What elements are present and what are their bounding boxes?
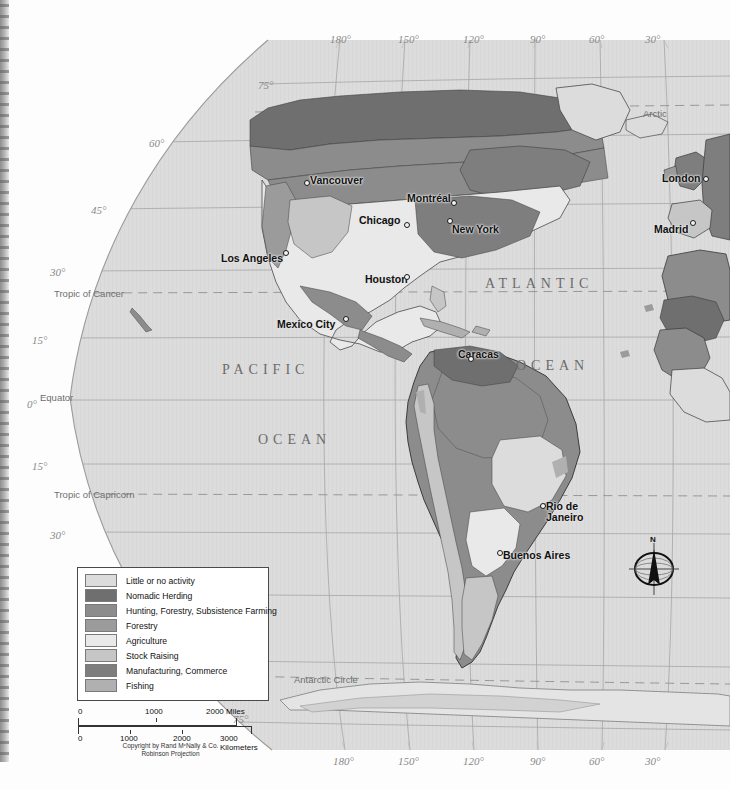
map-page: 180°150°120°90°60°30°180°150°120°90°60°3… bbox=[0, 0, 730, 790]
scale-miles-labels: 0 1000 2000 Miles bbox=[78, 707, 263, 718]
scale-bar-kilometers bbox=[78, 726, 252, 734]
city-label-houston: Houston bbox=[365, 273, 408, 285]
legend-swatch bbox=[85, 679, 117, 692]
legend-swatch bbox=[85, 664, 117, 677]
city-label-vancouver: Vancouver bbox=[310, 174, 363, 186]
city-marker-dot bbox=[497, 550, 503, 556]
ocean-label-2: ATLANTIC bbox=[485, 276, 593, 292]
latitude-label-2: 45° bbox=[91, 204, 106, 216]
city-label-london: London bbox=[662, 172, 700, 184]
city-marker-dot bbox=[540, 503, 546, 509]
legend-swatch bbox=[85, 649, 117, 662]
legend-label: Forestry bbox=[126, 621, 158, 631]
legend-label: Hunting, Forestry, Subsistence Farming bbox=[126, 606, 277, 616]
city-marker-dot bbox=[703, 176, 709, 182]
city-marker-dot bbox=[451, 200, 457, 206]
scale-mile-tick-0: 0 bbox=[78, 707, 82, 716]
compass-rose: N bbox=[627, 535, 681, 601]
credit-copyright: Copyright by Rand MᶜNally & Co. bbox=[78, 742, 263, 750]
scale-mile-tick-2: 2000 Miles bbox=[206, 707, 245, 716]
latitude-label-3: 30° bbox=[50, 266, 65, 278]
city-marker-dot bbox=[283, 250, 289, 256]
latitude-label-0: 75° bbox=[258, 79, 273, 91]
city-label-new-york: New York bbox=[452, 223, 499, 235]
longitude-label-bottom-5: 30° bbox=[645, 755, 660, 767]
legend-label: Manufacturing, Commerce bbox=[126, 666, 227, 676]
city-marker-dot bbox=[343, 316, 349, 322]
city-label-montr-al: Montréal bbox=[407, 192, 451, 204]
special-line-label-0: Arctic bbox=[643, 108, 667, 119]
legend-row-1[interactable]: Nomadic Herding bbox=[78, 588, 268, 603]
city-label-janeiro: Janeiro bbox=[546, 511, 583, 523]
longitude-label-top-5: 30° bbox=[645, 33, 660, 45]
longitude-label-top-0: 180° bbox=[330, 33, 351, 45]
scale-bar: 0 1000 2000 Miles 0 1000 2000 3000 Kilom… bbox=[78, 707, 263, 745]
special-line-label-4: Antarctic Circle bbox=[294, 674, 358, 685]
city-marker-dot bbox=[304, 180, 310, 186]
longitude-label-top-4: 60° bbox=[589, 33, 604, 45]
legend-label: Agriculture bbox=[126, 636, 167, 646]
special-line-label-2: Equator bbox=[40, 392, 73, 403]
legend-row-6[interactable]: Manufacturing, Commerce bbox=[78, 663, 268, 678]
ocean-label-1: OCEAN bbox=[258, 432, 331, 448]
legend-swatch bbox=[85, 604, 117, 617]
longitude-label-bottom-3: 90° bbox=[530, 755, 545, 767]
legend-label: Stock Raising bbox=[126, 651, 179, 661]
scale-mile-tick-1: 1000 bbox=[145, 707, 163, 716]
credit-projection: Robinson Projection bbox=[78, 750, 263, 758]
longitude-label-bottom-4: 60° bbox=[589, 755, 604, 767]
latitude-label-5: 0° bbox=[27, 398, 37, 410]
legend-box[interactable]: Little or no activityNomadic HerdingHunt… bbox=[77, 567, 269, 701]
city-marker-dot bbox=[404, 222, 410, 228]
longitude-label-bottom-0: 180° bbox=[333, 755, 354, 767]
compass-north-label: N bbox=[650, 535, 656, 544]
special-line-label-1: Tropic of Cancer bbox=[54, 288, 124, 299]
legend-row-2[interactable]: Hunting, Forestry, Subsistence Farming bbox=[78, 603, 268, 618]
latitude-label-1: 60° bbox=[149, 137, 164, 149]
longitude-label-top-1: 150° bbox=[398, 33, 419, 45]
legend-swatch bbox=[85, 574, 117, 587]
scale-bar-miles bbox=[78, 718, 237, 726]
city-label-buenos-aires: Buenos Aires bbox=[503, 549, 570, 561]
legend-swatch bbox=[85, 619, 117, 632]
ocean-label-0: PACIFIC bbox=[222, 362, 309, 378]
compass-rose-icon bbox=[627, 535, 681, 601]
legend-swatch bbox=[85, 634, 117, 647]
city-label-madrid: Madrid bbox=[654, 223, 688, 235]
latitude-label-6: 15° bbox=[32, 460, 47, 472]
latitude-label-4: 15° bbox=[32, 334, 47, 346]
city-label-chicago: Chicago bbox=[359, 214, 400, 226]
legend-label: Little or no activity bbox=[126, 576, 195, 586]
city-marker-dot bbox=[468, 356, 474, 362]
legend-label: Nomadic Herding bbox=[126, 591, 192, 601]
longitude-label-top-2: 120° bbox=[463, 33, 484, 45]
longitude-label-top-3: 90° bbox=[530, 33, 545, 45]
city-marker-dot bbox=[447, 218, 453, 224]
legend-row-7[interactable]: Fishing bbox=[78, 678, 268, 693]
special-line-label-3: Tropic of Capricorn bbox=[54, 489, 134, 500]
map-credit: Copyright by Rand MᶜNally & Co. Robinson… bbox=[78, 742, 263, 758]
legend-row-5[interactable]: Stock Raising bbox=[78, 648, 268, 663]
legend-row-3[interactable]: Forestry bbox=[78, 618, 268, 633]
legend-row-0[interactable]: Little or no activity bbox=[78, 573, 268, 588]
city-label-caracas: Caracas bbox=[458, 348, 499, 360]
legend-row-4[interactable]: Agriculture bbox=[78, 633, 268, 648]
longitude-label-bottom-2: 120° bbox=[463, 755, 484, 767]
latitude-label-7: 30° bbox=[50, 529, 65, 541]
city-marker-dot bbox=[404, 274, 410, 280]
legend-label: Fishing bbox=[126, 681, 154, 691]
ocean-label-3: OCEAN bbox=[516, 358, 589, 374]
longitude-label-bottom-1: 150° bbox=[398, 755, 419, 767]
city-label-mexico-city: Mexico City bbox=[277, 318, 335, 330]
legend-swatch bbox=[85, 589, 117, 602]
city-marker-dot bbox=[690, 220, 696, 226]
city-label-los-angeles: Los Angeles bbox=[221, 252, 283, 264]
